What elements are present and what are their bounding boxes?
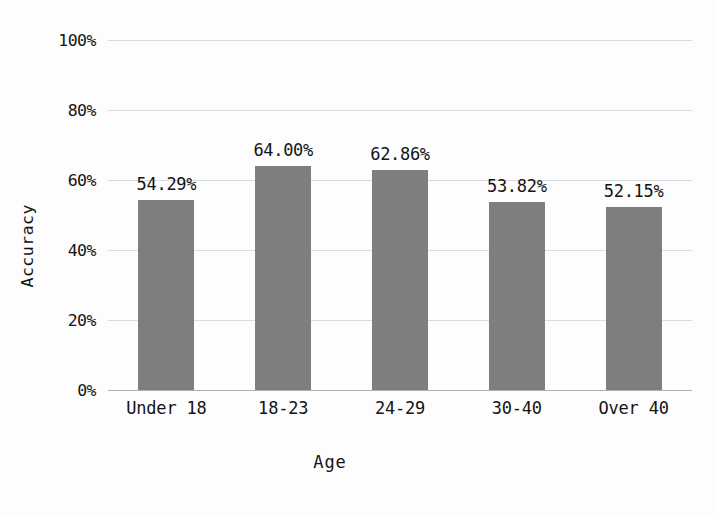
- bar-value-label: 64.00%: [253, 140, 313, 160]
- x-axis-tick-label: 24-29: [375, 398, 425, 418]
- x-axis-tick-label: Over 40: [598, 398, 668, 418]
- y-axis-tick-label: 0%: [0, 381, 96, 400]
- plot-area: [108, 40, 692, 390]
- y-axis-tick-label: 100%: [0, 31, 96, 50]
- bar-value-label: 53.82%: [487, 176, 547, 196]
- axis-baseline: [108, 390, 692, 391]
- bar-value-label: 54.29%: [137, 174, 197, 194]
- gridline: [108, 40, 692, 41]
- bar: [606, 207, 662, 390]
- bar-chart: Accuracy 0%20%40%60%80%100% 54.29%64.00%…: [0, 0, 716, 515]
- x-axis-tick-label: 18-23: [258, 398, 308, 418]
- x-axis-title: Age: [0, 452, 660, 472]
- y-axis-tick-label: 40%: [0, 241, 96, 260]
- bar: [372, 170, 428, 390]
- bar-value-label: 52.15%: [604, 181, 664, 201]
- y-axis-tick-label: 20%: [0, 311, 96, 330]
- gridline: [108, 110, 692, 111]
- bar-value-label: 62.86%: [370, 144, 430, 164]
- bar: [255, 166, 311, 390]
- y-axis-tick-label: 60%: [0, 171, 96, 190]
- y-axis-tick-label: 80%: [0, 101, 96, 120]
- bar: [489, 202, 545, 390]
- x-axis-tick-label: Under 18: [126, 398, 206, 418]
- x-axis-tick-label: 30-40: [492, 398, 542, 418]
- bar: [138, 200, 194, 390]
